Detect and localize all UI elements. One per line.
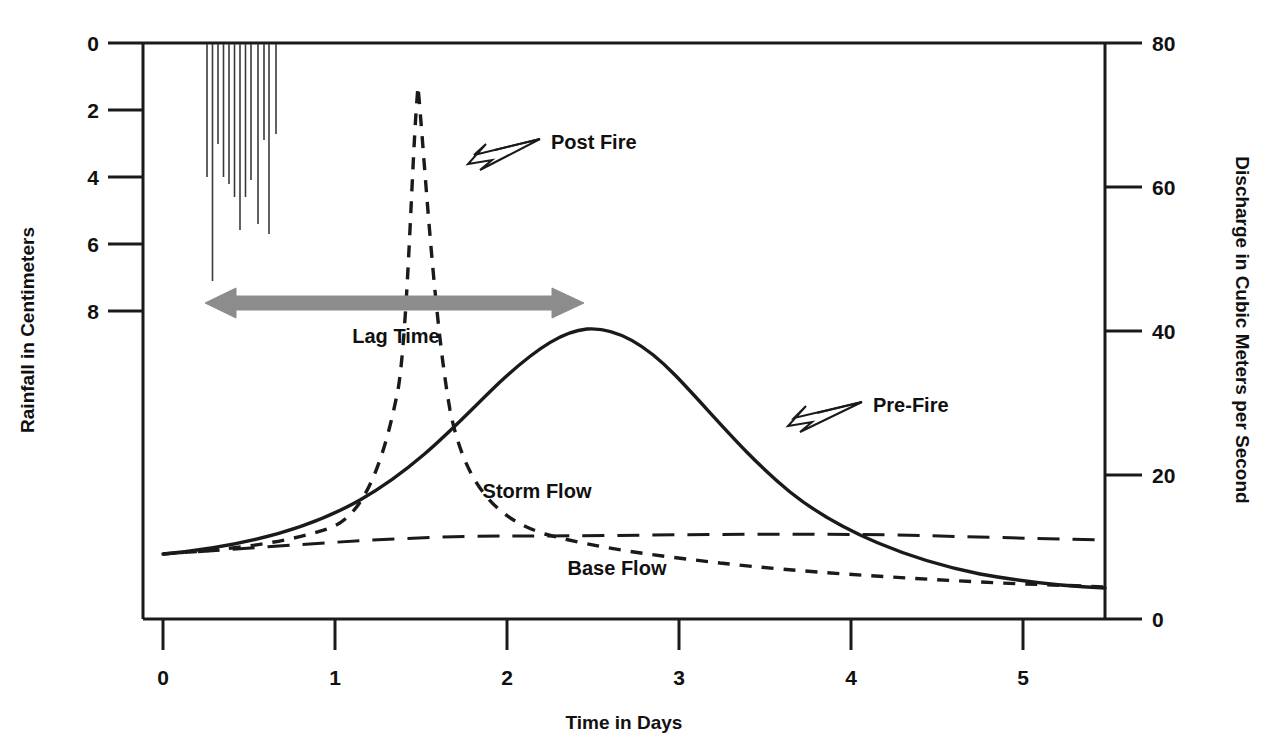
post-fire-curve [163,87,1105,587]
right-axis-title: Discharge in Cubic Meters per Second [1232,156,1253,503]
axis-frame [143,43,1105,619]
right-tick-label-60: 60 [1152,176,1175,199]
pre-fire-label: Pre-Fire [873,394,949,416]
left-tick-label-8: 8 [87,300,99,323]
post-fire-label: Post Fire [551,131,637,153]
left-tick-label-0: 0 [87,32,99,55]
bottom-tick-label-0: 0 [157,666,169,689]
pre-fire-arrow-icon [788,402,862,432]
right-tick-label-0: 0 [1152,608,1164,631]
left-tick-label-4: 4 [87,166,99,189]
lag-time-arrow-shape [205,288,584,318]
lag-time-arrow [205,288,584,318]
right-tick-label-80: 80 [1152,32,1175,55]
pre-fire-callout [788,402,862,432]
bottom-axis-title: Time in Days [566,712,683,733]
lag-time-label: Lag Time [352,325,439,347]
right-tick-label-20: 20 [1152,464,1175,487]
right-axis-ticks: 80 60 40 20 0 [1105,32,1175,631]
pre-fire-curve [163,329,1105,588]
hydrograph-svg: 0 2 4 6 8 80 60 40 20 0 0 [0,0,1269,743]
post-fire-callout [468,139,540,170]
right-tick-label-40: 40 [1152,320,1175,343]
base-flow-label: Base Flow [568,557,667,579]
bottom-tick-label-4: 4 [845,666,857,689]
left-axis-title: Rainfall in Centimeters [17,227,38,433]
bottom-tick-label-5: 5 [1017,666,1029,689]
bottom-tick-label-2: 2 [501,666,513,689]
left-tick-label-2: 2 [87,99,99,122]
bottom-tick-label-3: 3 [673,666,685,689]
rainfall-bars [207,44,276,281]
chart-figure: 0 2 4 6 8 80 60 40 20 0 0 [0,0,1269,743]
bottom-axis-ticks: 0 1 2 3 4 5 [157,619,1029,689]
storm-flow-label: Storm Flow [483,480,592,502]
bottom-tick-label-1: 1 [329,666,341,689]
left-tick-label-6: 6 [87,233,99,256]
left-axis-ticks: 0 2 4 6 8 [87,32,143,323]
post-fire-arrow-icon [468,139,540,170]
